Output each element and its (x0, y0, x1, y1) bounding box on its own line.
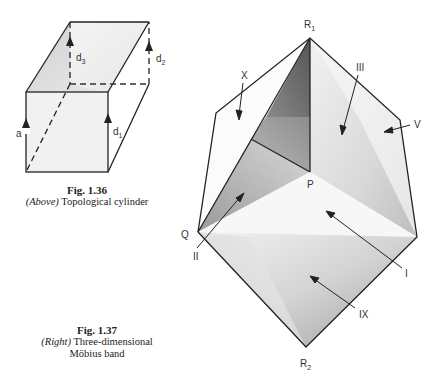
caption-number: Fig. 1.37 (0, 324, 194, 336)
label-iii: III (356, 62, 364, 73)
mobius-band-drawing: R1 R2 P Q X III V II I IX (181, 19, 421, 371)
caption-fig-1-36: Fig. 1.36 (Above) Topological cylinder (0, 184, 174, 208)
label-d2: d2 (156, 53, 166, 66)
label-v: V (414, 119, 421, 130)
label-i: I (405, 268, 408, 279)
caption-fig-1-37: Fig. 1.37 (Right) Three-dimensional Möbi… (0, 324, 194, 360)
label-p: P (307, 179, 314, 190)
label-r1: R1 (304, 19, 315, 32)
label-a: a (16, 128, 22, 139)
label-ii: II (193, 251, 199, 262)
caption-text: (Right) Three-dimensional (0, 336, 194, 348)
label-q: Q (181, 229, 189, 240)
caption-number: Fig. 1.36 (0, 184, 174, 196)
label-x: X (241, 70, 248, 81)
label-r2: R2 (300, 358, 311, 371)
cylinder-drawing: a d1 d2 d3 (16, 22, 166, 172)
arrow-d2-icon (145, 41, 153, 51)
caption-text: (Above) Topological cylinder (0, 196, 174, 208)
label-ix: IX (359, 309, 369, 320)
label-d1: d1 (113, 126, 123, 139)
caption-text-line2: Möbius band (0, 348, 194, 360)
